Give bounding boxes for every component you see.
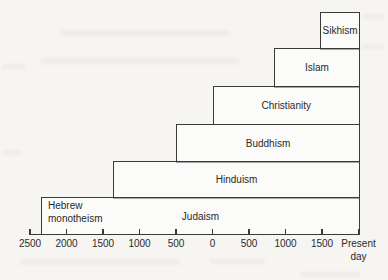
axis-tick <box>321 229 322 236</box>
bar-sikhism: Sikhism <box>320 12 360 50</box>
axis-tick <box>248 229 249 236</box>
religions-timeline-chart: SikhismIslamChristianityBuddhismHinduism… <box>0 0 388 280</box>
bar-label-buddhism: Buddhism <box>246 138 290 149</box>
axis-tick <box>139 229 140 236</box>
bar-label-christianity: Christianity <box>262 100 311 111</box>
axis-tick <box>29 229 30 236</box>
axis-tick <box>212 229 213 236</box>
axis-tick <box>175 229 176 236</box>
bar-hinduism: Hinduism <box>113 161 360 199</box>
bar-islam: Islam <box>274 48 360 88</box>
axis-tick <box>358 229 359 236</box>
bar-label-islam: Islam <box>305 62 329 73</box>
bar-christianity: Christianity <box>213 86 361 125</box>
axis-tick <box>285 229 286 236</box>
scanned-page: SikhismIslamChristianityBuddhismHinduism… <box>0 0 388 280</box>
bar-label-sikhism: Sikhism <box>323 25 358 36</box>
x-axis-line <box>30 234 360 236</box>
bar-label-judaism: Judaism <box>182 211 219 222</box>
axis-tick-label: Present day <box>336 238 382 263</box>
axis-tick <box>66 229 67 236</box>
axis-tick <box>102 229 103 236</box>
bar-buddhism: Buddhism <box>176 124 360 163</box>
hebrew-monotheism-annotation: Hebrew monotheism <box>48 200 122 225</box>
bar-label-hinduism: Hinduism <box>216 174 258 185</box>
